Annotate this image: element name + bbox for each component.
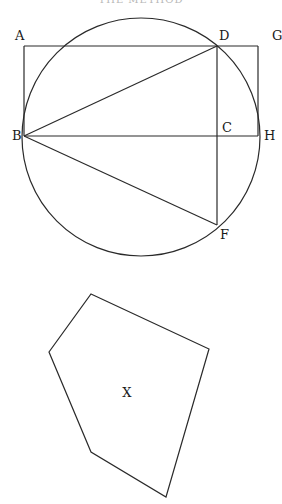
figure-circle-construction bbox=[22, 18, 260, 256]
point-label-h: H bbox=[264, 128, 275, 143]
figure-pentagon: X bbox=[49, 294, 209, 497]
line-segments bbox=[24, 46, 258, 225]
page-header: THE METHOD bbox=[0, 0, 282, 5]
segment-bf bbox=[24, 136, 217, 225]
point-label-a: A bbox=[14, 28, 25, 43]
point-label-g: G bbox=[272, 28, 282, 43]
pentagon-label: X bbox=[122, 385, 132, 400]
segment-bd bbox=[24, 46, 217, 136]
circle bbox=[22, 18, 260, 256]
geometry-figures: ABCDFGH X bbox=[0, 0, 282, 504]
point-label-f: F bbox=[220, 227, 229, 242]
point-label-d: D bbox=[219, 28, 229, 43]
diagram-page: THE METHOD ABCDFGH X bbox=[0, 0, 282, 504]
point-label-b: B bbox=[12, 128, 22, 143]
point-labels: ABCDFGH bbox=[12, 28, 282, 242]
point-label-c: C bbox=[222, 120, 232, 135]
